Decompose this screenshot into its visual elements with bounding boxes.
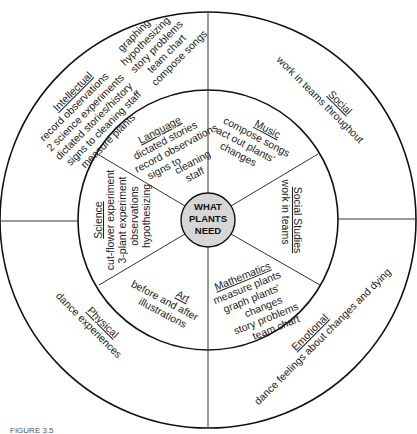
social-line: work in teams throughout	[274, 53, 367, 146]
social-studies-line: work in teams	[280, 179, 292, 245]
sector-social-studies: Social Studies work in teams	[280, 179, 304, 254]
social-studies-title: Social Studies	[292, 187, 304, 254]
sector-social: Social work in teams throughout	[274, 44, 375, 145]
science-line: 3-plant experiment	[116, 176, 128, 263]
figure-caption: FIGURE 3.5	[10, 426, 54, 434]
science-line: hypothesizing	[140, 184, 152, 248]
sector-science: Science cut-flower experiment 3-plant ex…	[92, 170, 152, 270]
hub-line-1: WHAT	[194, 201, 222, 212]
hub-line-2: PLANTS	[189, 213, 227, 224]
curriculum-web-diagram: WHAT PLANTS NEED Language dictated stori…	[0, 0, 417, 434]
sector-art: Art before and after illustrations	[124, 267, 207, 334]
sector-mathematics: Mathematics measure plants graph plants'…	[207, 255, 305, 350]
science-line: cut-flower experiment	[104, 170, 116, 270]
sector-physical: Physical dance experiences	[54, 281, 133, 360]
hub-line-3: NEED	[195, 225, 222, 236]
science-line: observations	[128, 186, 140, 246]
science-title: Science	[92, 201, 104, 239]
